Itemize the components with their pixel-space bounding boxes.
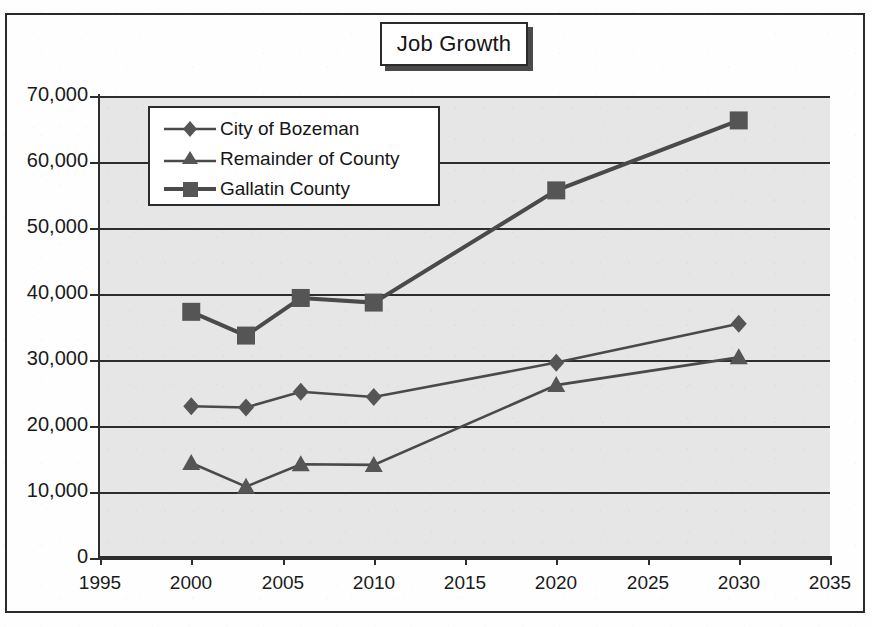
chart-legend: City of Bozeman Remainder of County Gall… xyxy=(148,106,440,206)
square-marker xyxy=(365,294,383,312)
legend-label: City of Bozeman xyxy=(220,118,359,140)
legend-item-remainder-of-county: Remainder of County xyxy=(162,144,428,174)
diamond-marker xyxy=(238,399,254,417)
series-line-city-of-bozeman xyxy=(191,324,739,408)
diamond-marker xyxy=(731,315,747,333)
diamond-marker xyxy=(366,388,382,406)
diamond-marker xyxy=(183,397,199,415)
square-marker xyxy=(547,181,565,199)
data-series-layer xyxy=(0,0,872,627)
diamond-marker-icon xyxy=(162,116,218,142)
legend-label: Gallatin County xyxy=(220,178,350,200)
square-marker-icon xyxy=(162,176,218,202)
square-marker xyxy=(182,303,200,321)
square-marker xyxy=(730,111,748,129)
square-marker xyxy=(237,327,255,345)
triangle-marker xyxy=(182,454,200,470)
legend-label: Remainder of County xyxy=(220,148,400,170)
diamond-marker xyxy=(548,354,564,372)
square-marker xyxy=(292,289,310,307)
triangle-marker xyxy=(730,348,748,364)
triangle-marker-icon xyxy=(162,146,218,172)
triangle-marker xyxy=(237,478,255,494)
legend-item-city-of-bozeman: City of Bozeman xyxy=(162,114,428,144)
legend-item-gallatin-county: Gallatin County xyxy=(162,174,428,204)
series-line-remainder-of-county xyxy=(191,357,739,486)
diamond-marker xyxy=(293,383,309,401)
